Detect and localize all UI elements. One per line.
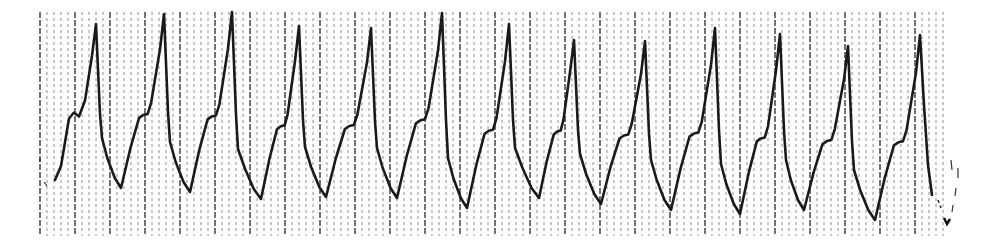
grid-lines [40, 12, 943, 236]
